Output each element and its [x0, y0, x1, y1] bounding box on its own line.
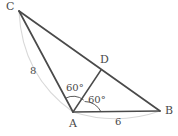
- side-length-ca: 8: [30, 66, 36, 76]
- segment-ab: [73, 111, 160, 112]
- vertex-label-d: D: [100, 54, 109, 65]
- vertex-label-c: C: [6, 1, 14, 12]
- segment-ca: [19, 11, 73, 112]
- side-length-ab: 6: [115, 117, 121, 127]
- vertex-label-a: A: [69, 118, 77, 129]
- figure-canvas: [0, 0, 178, 136]
- vertex-label-b: B: [165, 105, 173, 116]
- angle-measure-cad: 60°: [66, 83, 84, 93]
- angle-measure-dab: 60°: [88, 95, 106, 105]
- geometry-figure: C D A B 8 6 60° 60°: [0, 0, 178, 136]
